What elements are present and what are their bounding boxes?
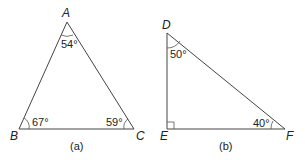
vertex-label-b: B <box>10 129 18 143</box>
triangle-b: D E F 50° 40° (b) <box>160 18 294 152</box>
angle-value-f: 40° <box>253 117 270 129</box>
vertex-label-c: C <box>136 129 145 143</box>
angle-value-b: 67° <box>32 116 49 128</box>
vertex-label-e: E <box>160 129 169 143</box>
right-angle-marker-e <box>167 122 174 129</box>
vertex-label-f: F <box>286 129 294 143</box>
angle-value-c: 59° <box>106 116 123 128</box>
angle-arc-b <box>24 118 29 129</box>
angle-arc-a <box>61 35 73 36</box>
angle-value-d: 50° <box>170 48 187 60</box>
angle-arc-c <box>124 119 128 129</box>
angle-value-a: 54° <box>61 38 78 50</box>
vertex-label-a: A <box>61 6 70 20</box>
angle-arc-f <box>271 121 273 129</box>
triangle-a: A B C 54° 67° 59° (a) <box>10 6 145 152</box>
caption-b: (b) <box>219 140 232 152</box>
caption-a: (a) <box>70 140 83 152</box>
triangles-diagram: A B C 54° 67° 59° (a) D E F 50° 40° (b) <box>0 0 305 160</box>
vertex-label-d: D <box>162 18 171 32</box>
